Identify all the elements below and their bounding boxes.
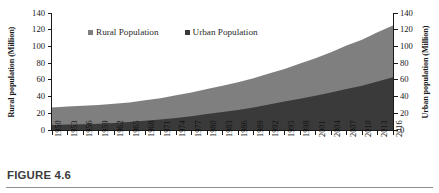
chart-area: Rural population (Million) Urban populat… <box>0 0 439 168</box>
x-tick-mark <box>315 131 316 135</box>
x-tick-label: 1998 <box>303 120 311 137</box>
x-tick-mark <box>129 131 130 135</box>
x-tick-mark <box>300 131 301 135</box>
x-tick-mark <box>253 131 254 135</box>
x-tick-label: 2007 <box>350 120 358 137</box>
x-tick-mark <box>331 131 332 135</box>
x-tick-mark <box>176 131 177 135</box>
right-tick-mark <box>394 29 398 30</box>
x-tick-label: 1986 <box>241 120 249 137</box>
x-tick-mark <box>83 131 84 135</box>
x-tick-label: 1977 <box>195 120 203 137</box>
right-tick-label: 140 <box>400 9 426 18</box>
legend-item-urban: Urban Population <box>185 28 258 37</box>
x-tick-mark <box>191 131 192 135</box>
x-tick-mark <box>160 131 161 135</box>
x-tick-label: 2016 <box>396 120 404 137</box>
left-tick-label: 0 <box>19 126 45 135</box>
x-tick-mark <box>362 131 363 135</box>
left-tick-label: 120 <box>19 25 45 34</box>
x-tick-label: 1992 <box>272 120 280 137</box>
x-tick-label: 1995 <box>288 120 296 137</box>
x-tick-mark <box>346 131 347 135</box>
left-tick-mark <box>48 63 52 64</box>
x-tick-label: 1959 <box>102 120 110 137</box>
left-tick-label: 60 <box>19 75 45 84</box>
square-marker-icon <box>185 30 190 35</box>
left-tick-label: 20 <box>19 109 45 118</box>
x-tick-label: 1956 <box>86 120 94 137</box>
left-tick-label: 80 <box>19 59 45 68</box>
x-tick-label: 1974 <box>179 120 187 137</box>
y-axis-left-title: Rural population (Million) <box>8 12 16 132</box>
right-tick-mark <box>394 46 398 47</box>
left-tick-mark <box>48 96 52 97</box>
left-tick-label: 140 <box>19 9 45 18</box>
x-tick-label: 2001 <box>319 120 327 137</box>
x-tick-label: 1950 <box>55 120 63 137</box>
right-tick-label: 60 <box>400 75 426 84</box>
x-tick-mark <box>145 131 146 135</box>
right-tick-mark <box>394 96 398 97</box>
x-tick-mark <box>207 131 208 135</box>
right-tick-mark <box>394 63 398 64</box>
figure-caption: FIGURE 4.6 <box>0 168 439 193</box>
right-tick-mark <box>394 13 398 14</box>
left-tick-mark <box>48 13 52 14</box>
x-tick-label: 2010 <box>365 120 373 137</box>
left-tick-mark <box>48 113 52 114</box>
right-tick-label: 20 <box>400 109 426 118</box>
x-tick-label: 1971 <box>164 120 172 137</box>
x-tick-label: 1989 <box>257 120 265 137</box>
x-tick-mark <box>269 131 270 135</box>
right-tick-label: 120 <box>400 25 426 34</box>
figure-container: Rural population (Million) Urban populat… <box>0 0 439 193</box>
left-tick-label: 100 <box>19 42 45 51</box>
x-tick-mark <box>284 131 285 135</box>
square-marker-icon <box>88 30 93 35</box>
right-tick-mark <box>394 113 398 114</box>
left-tick-label: 40 <box>19 92 45 101</box>
x-tick-label: 2004 <box>334 120 342 137</box>
chart-legend: Rural Population Urban Population <box>88 28 258 37</box>
legend-label-urban: Urban Population <box>193 28 258 37</box>
right-tick-label: 40 <box>400 92 426 101</box>
caption-divider <box>6 187 433 188</box>
x-tick-mark <box>222 131 223 135</box>
figure-caption-label: FIGURE 4.6 <box>7 170 71 181</box>
x-tick-mark <box>98 131 99 135</box>
legend-item-rural: Rural Population <box>88 28 159 37</box>
x-tick-mark <box>393 131 394 135</box>
x-tick-label: 1962 <box>117 120 125 137</box>
left-tick-mark <box>48 46 52 47</box>
x-tick-mark <box>238 131 239 135</box>
x-tick-label: 1965 <box>133 120 141 137</box>
x-tick-mark <box>377 131 378 135</box>
x-tick-label: 1968 <box>148 120 156 137</box>
x-tick-mark <box>52 131 53 135</box>
right-tick-label: 100 <box>400 42 426 51</box>
x-tick-label: 1980 <box>210 120 218 137</box>
x-tick-label: 1953 <box>71 120 79 137</box>
x-tick-label: 1983 <box>226 120 234 137</box>
left-tick-mark <box>48 29 52 30</box>
right-tick-mark <box>394 79 398 80</box>
left-tick-mark <box>48 79 52 80</box>
legend-label-rural: Rural Population <box>96 28 159 37</box>
x-tick-mark <box>114 131 115 135</box>
right-tick-label: 80 <box>400 59 426 68</box>
x-tick-mark <box>67 131 68 135</box>
x-tick-label: 2013 <box>381 120 389 137</box>
